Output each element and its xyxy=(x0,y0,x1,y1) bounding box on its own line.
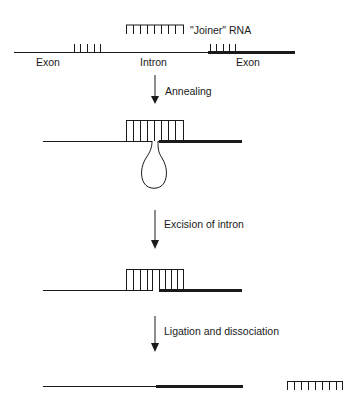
right-splice-site-ticks xyxy=(211,44,236,52)
step-label-annealing: Annealing xyxy=(165,85,212,97)
stage-4-ligated xyxy=(43,381,343,390)
step-arrow-annealing: Annealing xyxy=(151,75,212,104)
joiner-rna-comb xyxy=(126,25,184,34)
stage-2-annealed xyxy=(43,120,242,188)
step-label-excision: Excision of intron xyxy=(164,218,244,230)
left-splice-site-ticks xyxy=(75,44,101,52)
step-arrow-ligation: Ligation and dissociation xyxy=(151,316,279,352)
joiner-rna-label: "Joiner" RNA xyxy=(190,24,251,36)
intron-loop xyxy=(142,141,167,188)
exon-left-label: Exon xyxy=(36,56,60,68)
step-label-ligation: Ligation and dissociation xyxy=(164,325,279,337)
joiner-rna-comb-annealed xyxy=(126,120,184,141)
released-joiner-rna-comb xyxy=(287,381,343,390)
splicing-diagram: "Joiner" RNA Exon Intron Exon Annealing xyxy=(0,0,348,401)
intron-label: Intron xyxy=(140,56,167,68)
stage-1-precursor: "Joiner" RNA Exon Intron Exon xyxy=(14,24,295,68)
step-arrow-excision: Excision of intron xyxy=(151,210,244,249)
exon-right-label: Exon xyxy=(236,56,260,68)
stage-3-excised xyxy=(43,269,242,291)
joiner-rna-comb-bridging xyxy=(126,269,184,290)
